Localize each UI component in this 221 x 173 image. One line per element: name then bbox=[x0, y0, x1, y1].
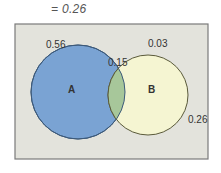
a-only-value: 0.56 bbox=[46, 39, 66, 50]
b-only-value: 0.03 bbox=[148, 38, 168, 49]
set-a-label: A bbox=[68, 84, 75, 95]
venn-diagram: 0.56 0.03 0.15 A B 0.26 bbox=[0, 0, 221, 173]
intersection-value: 0.15 bbox=[108, 57, 128, 68]
outside-value: 0.26 bbox=[188, 114, 208, 125]
set-b-label: B bbox=[148, 84, 155, 95]
